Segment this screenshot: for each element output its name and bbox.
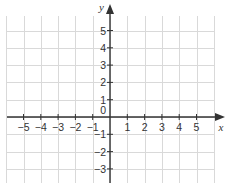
background: [0, 0, 228, 183]
x-tick-label: 2: [142, 121, 148, 133]
y-tick-label: −2: [94, 146, 106, 158]
x-tick-label: −4: [35, 121, 47, 133]
y-tick-label: 4: [100, 42, 106, 54]
y-tick-label: −1: [94, 128, 106, 140]
y-tick-label: 3: [100, 59, 106, 71]
x-tick-label: −5: [18, 121, 30, 133]
coordinate-plane: −5−4−3−2−11234554321−1−2−30xy: [0, 0, 228, 183]
y-tick-label: 5: [100, 25, 106, 37]
x-axis-name: x: [218, 121, 224, 133]
y-axis-name: y: [98, 1, 104, 13]
x-tick-label: 1: [124, 121, 130, 133]
x-tick-label: 4: [176, 121, 182, 133]
x-tick-label: −3: [52, 121, 64, 133]
y-tick-label: −3: [94, 163, 106, 175]
origin-label: 0: [100, 104, 106, 116]
y-tick-label: 2: [100, 76, 106, 88]
x-tick-label: 5: [194, 121, 200, 133]
x-tick-label: 3: [159, 121, 165, 133]
x-tick-label: −2: [69, 121, 81, 133]
